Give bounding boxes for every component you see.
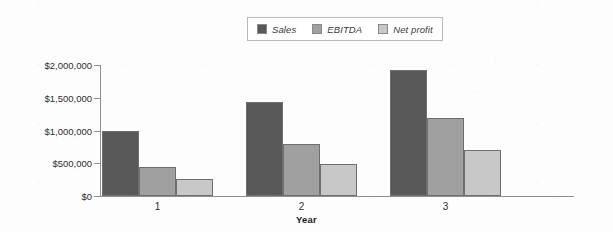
legend-item[interactable]: Net profit xyxy=(378,24,433,35)
x-axis-title: Year xyxy=(0,214,613,225)
y-axis-tick-label: $500,000 xyxy=(0,158,92,169)
bar[interactable] xyxy=(176,179,213,196)
bar[interactable] xyxy=(102,131,139,196)
legend-item-label: EBITDA xyxy=(327,24,362,35)
legend-swatch-icon xyxy=(257,24,267,34)
bar[interactable] xyxy=(320,164,357,196)
x-axis-tick-label: 1 xyxy=(155,201,161,212)
y-axis-tick-label: $1,000,000 xyxy=(0,125,92,136)
bar[interactable] xyxy=(246,102,283,196)
legend-item[interactable]: EBITDA xyxy=(312,24,362,35)
y-axis-tick-label: $0 xyxy=(0,191,92,202)
bar-chart: SalesEBITDANet profit $0$500,000$1,000,0… xyxy=(0,0,613,232)
bar[interactable] xyxy=(427,118,464,196)
y-axis-tick-label: $1,500,000 xyxy=(0,92,92,103)
x-axis-tick-label: 2 xyxy=(299,201,305,212)
bar[interactable] xyxy=(390,70,427,196)
legend-item[interactable]: Sales xyxy=(257,24,296,35)
chart-legend: SalesEBITDANet profit xyxy=(247,17,443,41)
y-axis-tick xyxy=(94,196,100,197)
y-axis-tick-label: $2,000,000 xyxy=(0,60,92,71)
legend-swatch-icon xyxy=(378,24,388,34)
x-axis-tick-label: 3 xyxy=(443,201,449,212)
bar[interactable] xyxy=(464,150,501,196)
legend-item-label: Net profit xyxy=(393,24,433,35)
x-axis-line xyxy=(100,196,574,197)
plot-area xyxy=(100,65,570,196)
bar[interactable] xyxy=(139,167,176,196)
legend-swatch-icon xyxy=(312,24,322,34)
legend-item-label: Sales xyxy=(272,24,296,35)
bar[interactable] xyxy=(283,144,320,196)
